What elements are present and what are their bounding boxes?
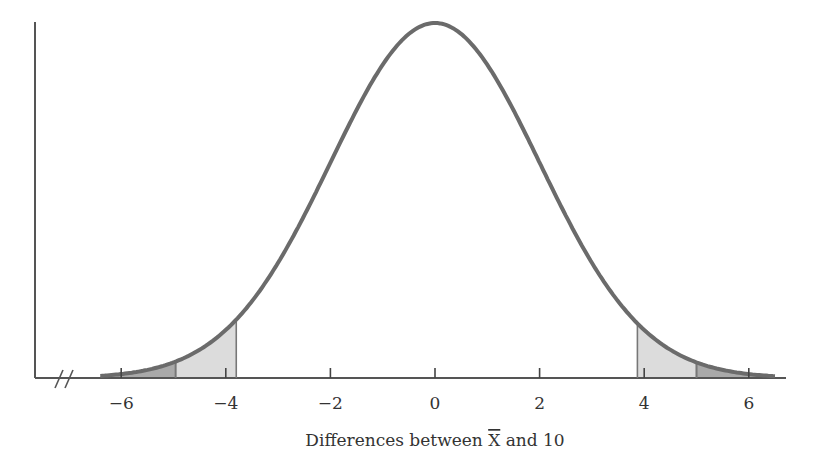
x-tick-label: −6 — [109, 393, 134, 413]
normal-distribution-chart: −6−4−20246 Differences between X and 10 — [0, 0, 816, 466]
x-tick-label: 0 — [430, 393, 441, 413]
region-boundaries — [176, 320, 697, 378]
x-bar-symbol: X — [488, 430, 501, 450]
normal-curve — [100, 23, 775, 376]
x-tick-label: 4 — [639, 393, 650, 413]
x-axis-label: Differences between X and 10 — [305, 430, 564, 450]
x-tick-label: 6 — [743, 393, 754, 413]
x-tick-label: 2 — [534, 393, 545, 413]
x-tick-label: −2 — [318, 393, 343, 413]
x-tick-label: −4 — [213, 393, 238, 413]
